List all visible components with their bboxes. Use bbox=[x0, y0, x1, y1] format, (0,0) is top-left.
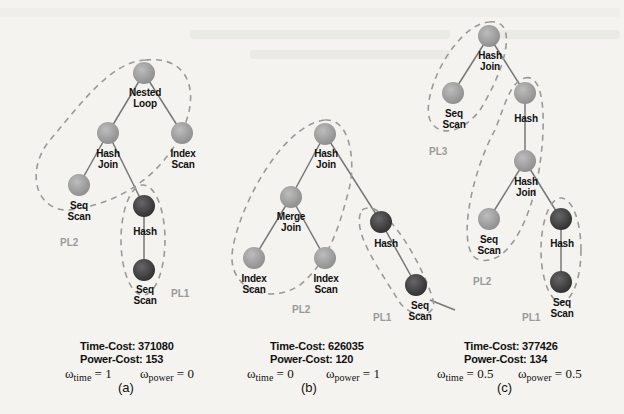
pipeline-label: PL2 bbox=[473, 276, 491, 287]
node-label: Seq Scan bbox=[408, 300, 431, 322]
pipeline-label: PL2 bbox=[292, 304, 310, 315]
pipeline-label: PL1 bbox=[373, 312, 391, 323]
node-label: Hash bbox=[514, 113, 538, 124]
node-label: Index Scan bbox=[313, 273, 338, 295]
node-label: Seq Scan bbox=[550, 297, 573, 319]
omega-power: ωpower = 0.5 bbox=[518, 366, 582, 383]
node-label: Index Scan bbox=[241, 273, 266, 295]
node-label: Hash bbox=[550, 238, 574, 249]
node-label: Hash Join bbox=[96, 148, 120, 170]
caption-b: (b) bbox=[301, 380, 317, 395]
node-label: Merge Join bbox=[277, 211, 305, 233]
power-cost: Power-Cost: 134 bbox=[464, 353, 547, 366]
power-cost: Power-Cost: 153 bbox=[80, 353, 163, 366]
pipeline-label: PL2 bbox=[60, 237, 78, 248]
pipeline-label: PL1 bbox=[171, 288, 189, 299]
omega-time: ωtime = 0.5 bbox=[437, 366, 493, 383]
node-label: Hash bbox=[133, 226, 157, 237]
power-cost: Power-Cost: 120 bbox=[270, 353, 353, 366]
omega-power: ωpower = 0 bbox=[140, 366, 194, 383]
node-label: Hash Join bbox=[514, 176, 538, 198]
node-label: Seq Scan bbox=[67, 200, 90, 222]
pipeline-label: PL3 bbox=[429, 146, 447, 157]
pipeline-label: PL1 bbox=[522, 312, 540, 323]
node-label: Index Scan bbox=[170, 148, 195, 170]
caption-a: (a) bbox=[118, 380, 134, 395]
caption-c: (c) bbox=[497, 380, 512, 395]
node-label: Seq Scan bbox=[133, 284, 156, 306]
node-label: Hash bbox=[374, 238, 398, 249]
node-label: Nested Loop bbox=[129, 87, 161, 109]
omega-time: ωtime = 1 bbox=[65, 366, 112, 383]
node-label: Hash Join bbox=[314, 148, 338, 170]
node-label: Seq Scan bbox=[477, 234, 500, 256]
omega-power: ωpower = 1 bbox=[326, 366, 380, 383]
time-cost: Time-Cost: 377426 bbox=[464, 340, 558, 353]
omega-time: ωtime = 0 bbox=[247, 366, 294, 383]
node-label: Seq Scan bbox=[442, 108, 465, 130]
node-label: Hash Join bbox=[478, 50, 502, 72]
time-cost: Time-Cost: 371080 bbox=[80, 340, 174, 353]
time-cost: Time-Cost: 626035 bbox=[270, 340, 364, 353]
